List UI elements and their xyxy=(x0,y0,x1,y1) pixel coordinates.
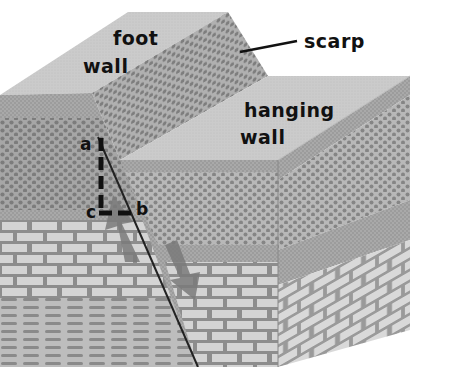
point-c-label: c xyxy=(86,204,97,221)
foot-wall-label-line2: wall xyxy=(83,57,128,76)
fault-diagram: foot wall scarp hanging wall a c b xyxy=(0,0,451,367)
point-a-label: a xyxy=(80,136,92,153)
diagram-canvas xyxy=(0,0,451,367)
hanging-wall-label-line1: hanging xyxy=(244,101,335,120)
scarp-label: scarp xyxy=(304,32,365,51)
hanging-wall-label-line2: wall xyxy=(240,128,285,147)
point-b-label: b xyxy=(136,201,149,218)
foot-wall-label-line1: foot xyxy=(113,29,158,48)
